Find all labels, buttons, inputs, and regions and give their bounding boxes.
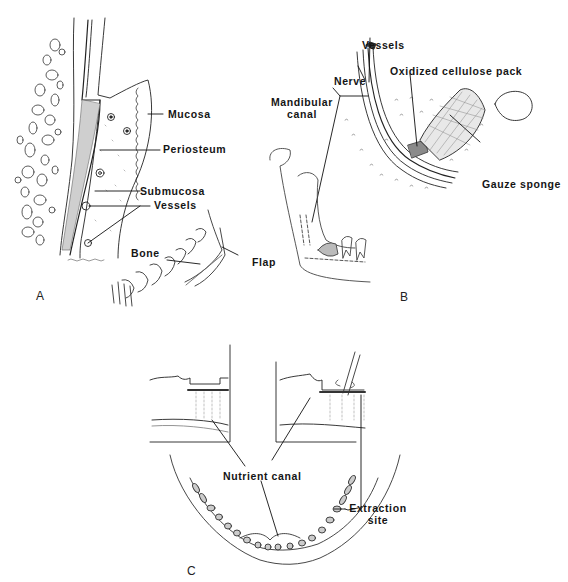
teeth-flap-icon: [112, 210, 225, 306]
panel-c-drawing: [150, 345, 400, 564]
panel-letter-b: B: [400, 290, 408, 304]
label-bone: Bone: [131, 247, 160, 259]
label-periosteum: Periosteum: [163, 143, 226, 155]
label-submucosa: Submucosa: [140, 185, 205, 197]
label-vessels-b: Vessels: [362, 39, 405, 51]
label-mandibular-canal-line2: canal: [270, 108, 334, 120]
label-mandibular-canal: Mandibular canal: [270, 96, 334, 120]
label-flap: Flap: [252, 256, 276, 268]
panel-letter-a: A: [36, 289, 44, 303]
artist-signature: [68, 259, 104, 261]
label-extraction-site: Extraction site: [346, 502, 410, 526]
label-oxidized-cellulose-pack: Oxidized cellulose pack: [390, 65, 522, 77]
label-vessels-a: Vessels: [154, 199, 197, 211]
mandible-icon: [270, 148, 370, 282]
panel-letter-c: C: [187, 564, 196, 578]
label-extraction-site-line2: site: [346, 514, 410, 526]
label-nutrient-canal: Nutrient canal: [223, 470, 301, 482]
cancellous-bone-icon: [15, 39, 65, 245]
figure-illustration: [0, 0, 568, 582]
label-mucosa: Mucosa: [168, 108, 211, 120]
label-nerve: Nerve: [334, 75, 366, 87]
label-extraction-site-line1: Extraction: [346, 502, 410, 514]
label-mandibular-canal-line1: Mandibular: [270, 96, 334, 108]
label-gauze-sponge: Gauze sponge: [482, 178, 561, 190]
panel-a-drawing: [15, 18, 238, 306]
